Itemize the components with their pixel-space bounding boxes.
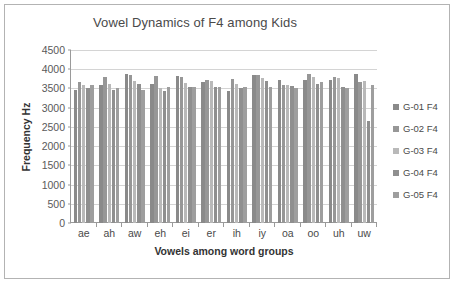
- bar[interactable]: [103, 77, 106, 223]
- bar[interactable]: [141, 90, 144, 223]
- bar-group: [326, 50, 352, 223]
- bar[interactable]: [188, 87, 191, 223]
- y-tick-label: 0: [59, 217, 65, 229]
- legend-item[interactable]: G-04 F4: [393, 167, 455, 178]
- bar[interactable]: [116, 88, 119, 223]
- bar[interactable]: [329, 80, 332, 223]
- bar[interactable]: [303, 80, 306, 223]
- bar[interactable]: [112, 90, 115, 223]
- bar[interactable]: [307, 74, 310, 223]
- bar[interactable]: [278, 80, 281, 223]
- legend-swatch-icon: [393, 104, 399, 110]
- bar[interactable]: [261, 78, 264, 223]
- x-tick-label: iy: [250, 227, 276, 239]
- x-tick-label: oo: [301, 227, 327, 239]
- bar[interactable]: [371, 85, 374, 223]
- bar[interactable]: [345, 88, 348, 223]
- x-tick-label: er: [199, 227, 225, 239]
- bar-group: [122, 50, 148, 223]
- bar[interactable]: [163, 91, 166, 223]
- bar-group: [275, 50, 301, 223]
- bar[interactable]: [227, 91, 230, 223]
- bar[interactable]: [218, 87, 221, 223]
- bar[interactable]: [74, 90, 77, 223]
- bar[interactable]: [210, 81, 213, 223]
- y-tick-label: 1000: [42, 179, 65, 191]
- bar[interactable]: [99, 85, 102, 223]
- bar[interactable]: [337, 78, 340, 223]
- bar[interactable]: [286, 85, 289, 223]
- x-tick-label: uw: [352, 227, 378, 239]
- bar-group: [173, 50, 199, 223]
- legend-item[interactable]: G-05 F4: [393, 189, 455, 200]
- bar[interactable]: [167, 87, 170, 223]
- bar[interactable]: [312, 77, 315, 223]
- bar[interactable]: [243, 87, 246, 223]
- legend-item[interactable]: G-02 F4: [393, 123, 455, 134]
- plot-area: 450040003500300025002000150010005000: [71, 50, 377, 223]
- bar[interactable]: [137, 84, 140, 223]
- bar[interactable]: [125, 74, 128, 223]
- bar[interactable]: [265, 81, 268, 223]
- bar[interactable]: [252, 75, 255, 223]
- bar-group: [301, 50, 327, 223]
- bar[interactable]: [192, 87, 195, 223]
- x-axis-title: Vowels among word groups: [71, 245, 377, 257]
- bar[interactable]: [150, 84, 153, 223]
- bar[interactable]: [78, 82, 81, 223]
- legend-item[interactable]: G-01 F4: [393, 101, 455, 112]
- bar[interactable]: [239, 88, 242, 223]
- bar-group: [199, 50, 225, 223]
- y-axis-title-label: Frequency Hz: [20, 102, 32, 171]
- bar-group: [224, 50, 250, 223]
- legend-swatch-icon: [393, 126, 399, 132]
- bar[interactable]: [294, 88, 297, 223]
- bar[interactable]: [201, 82, 204, 223]
- bar[interactable]: [363, 81, 366, 223]
- bar[interactable]: [320, 82, 323, 223]
- bar[interactable]: [159, 88, 162, 223]
- x-tick-labels: aeahaweheierihiyoaoouhuw: [71, 227, 377, 239]
- bar[interactable]: [333, 77, 336, 223]
- bar[interactable]: [269, 87, 272, 223]
- bar[interactable]: [133, 81, 136, 223]
- x-tick-label: eh: [148, 227, 174, 239]
- bar-group: [148, 50, 174, 223]
- bar[interactable]: [358, 82, 361, 223]
- bar[interactable]: [231, 79, 234, 223]
- chart-title: Vowel Dynamics of F4 among Kids: [5, 15, 385, 30]
- y-tick-label: 3500: [42, 82, 65, 94]
- bar[interactable]: [184, 83, 187, 223]
- bar[interactable]: [354, 74, 357, 223]
- y-tick-label: 4500: [42, 44, 65, 56]
- y-tick-label: 4000: [42, 63, 65, 75]
- y-tick-label: 3000: [42, 102, 65, 114]
- bar[interactable]: [154, 76, 157, 223]
- y-tick-label: 500: [47, 198, 65, 210]
- bar[interactable]: [235, 84, 238, 223]
- legend-swatch-icon: [393, 192, 399, 198]
- x-tick-label: ah: [97, 227, 123, 239]
- bar[interactable]: [90, 85, 93, 223]
- x-tick-label: uh: [326, 227, 352, 239]
- legend-label: G-02 F4: [403, 123, 438, 134]
- legend-swatch-icon: [393, 170, 399, 176]
- bar[interactable]: [176, 76, 179, 223]
- bar[interactable]: [82, 85, 85, 223]
- bar[interactable]: [108, 84, 111, 223]
- y-axis-title: Frequency Hz: [19, 50, 33, 223]
- legend-item[interactable]: G-03 F4: [393, 145, 455, 156]
- bar[interactable]: [367, 121, 370, 223]
- bar[interactable]: [316, 84, 319, 223]
- bar[interactable]: [282, 85, 285, 223]
- bar[interactable]: [180, 77, 183, 223]
- bar[interactable]: [341, 87, 344, 223]
- x-tick-label: aw: [122, 227, 148, 239]
- bar[interactable]: [86, 88, 89, 223]
- bar[interactable]: [129, 75, 132, 223]
- bar[interactable]: [205, 80, 208, 223]
- chart-frame: Vowel Dynamics of F4 among Kids Frequenc…: [4, 4, 450, 279]
- bar[interactable]: [214, 87, 217, 223]
- bar[interactable]: [290, 86, 293, 223]
- bar[interactable]: [256, 75, 259, 223]
